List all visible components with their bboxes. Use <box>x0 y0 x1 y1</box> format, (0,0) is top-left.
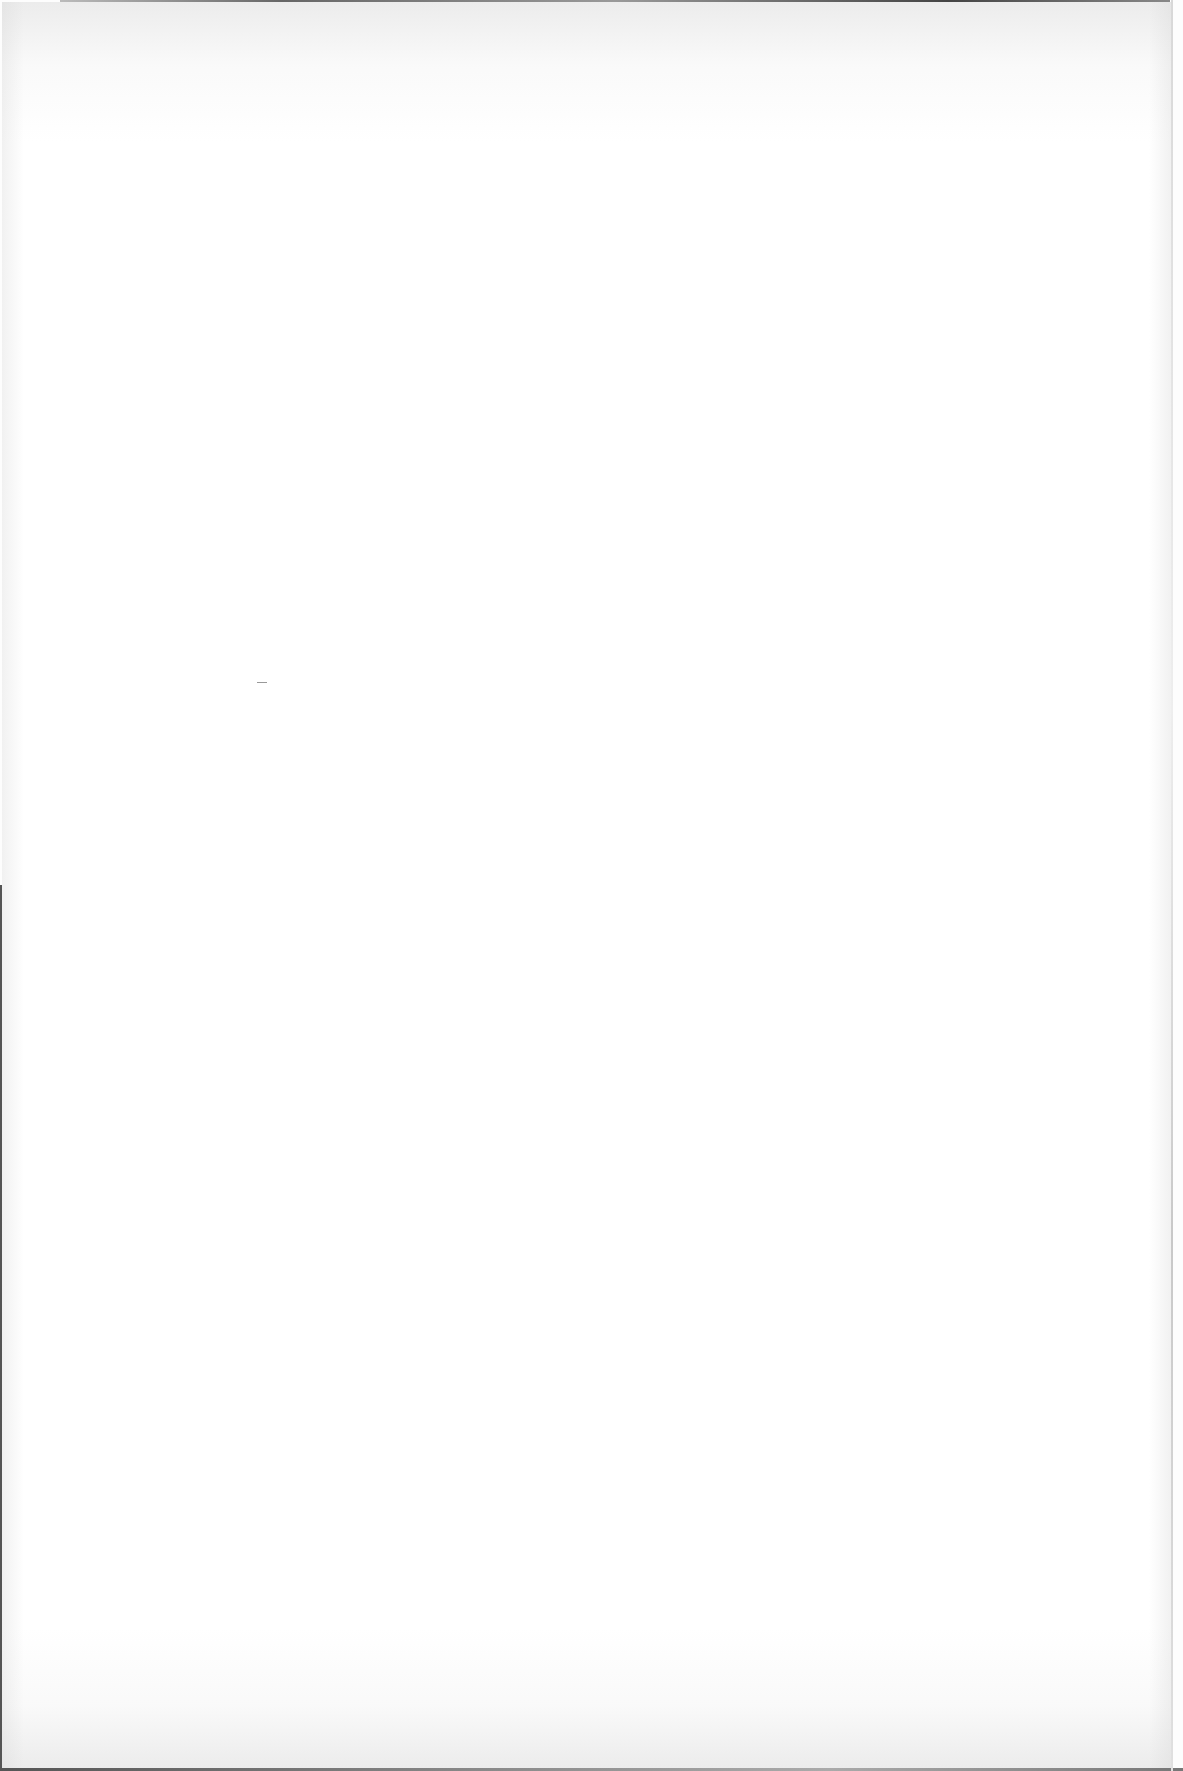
blank-page <box>2 2 1171 1768</box>
stray-mark <box>257 682 267 683</box>
page-shadow-left <box>2 2 24 1768</box>
scan-edge-top <box>60 0 1170 2</box>
scan-edge-right <box>1171 0 1173 1771</box>
bleed-through-bottom <box>2 1628 1171 1768</box>
scan-edge-left <box>0 885 2 1771</box>
page-shadow-right <box>1149 2 1171 1768</box>
bleed-through-top <box>2 2 1171 142</box>
scanned-document <box>0 0 1183 1771</box>
